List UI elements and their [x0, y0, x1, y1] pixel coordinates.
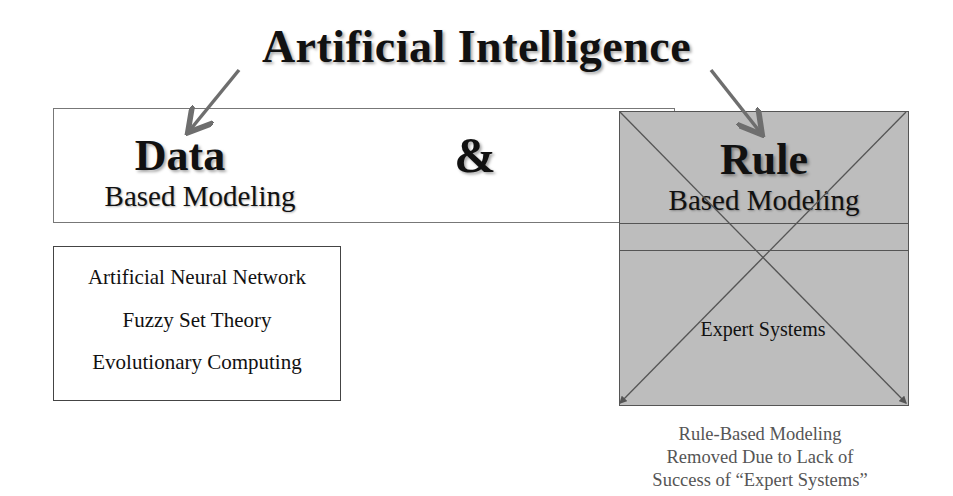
arrow-to-data-icon: [190, 70, 239, 130]
arrow-to-rule-icon: [711, 70, 760, 132]
cross-out-x-icon: [620, 112, 906, 403]
connector-overlay: [0, 0, 953, 496]
